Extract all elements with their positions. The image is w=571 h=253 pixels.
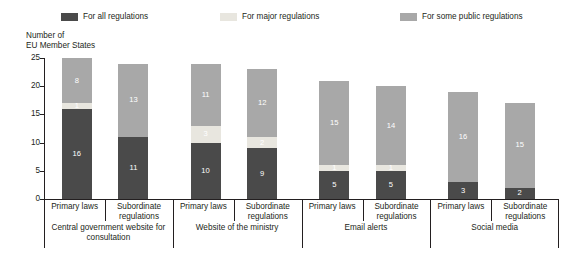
category-label-3: Primary laws [174,202,233,212]
bar-segment-all-regulations: 11 [118,137,148,199]
bar-segment-value-label: 16 [73,150,81,158]
legend-swatch-all-regulations [61,13,78,21]
bar-segment-value-label: 2 [260,139,264,147]
legend-item-some-public-regulations[interactable]: For some public regulations [400,12,523,21]
bar-segment-value-label: 10 [201,167,209,175]
bar-segment-value-label: 11 [202,91,210,99]
bar-2[interactable]: 1311 [118,64,148,199]
y-axis-tick-label: 15 [18,110,40,118]
group-label-2: Website of the ministry [175,223,300,233]
bar-segment-value-label: 8 [75,77,79,85]
bar-5[interactable]: 1515 [319,81,349,199]
bar-segment-some-public-regulations: 8 [62,58,92,103]
bar-segment-major-regulations: 3 [191,126,221,143]
legend-label: For major regulations [242,12,319,21]
chart-legend: For all regulationsFor major regulations… [0,8,571,28]
y-axis-tick-label: 10 [18,139,40,147]
bar-segment-all-regulations: 10 [191,143,221,199]
bar-4[interactable]: 1229 [247,69,277,199]
bar-6[interactable]: 1415 [376,86,406,199]
bar-7[interactable]: 163 [448,92,478,199]
bar-segment-all-regulations: 5 [319,171,349,199]
bar-segment-some-public-regulations: 11 [191,64,221,126]
bar-segment-all-regulations: 9 [247,148,277,199]
bar-segment-value-label: 9 [260,170,264,178]
bar-3[interactable]: 11310 [191,64,221,199]
category-label-5: Primary laws [303,202,362,212]
y-axis-tick [40,86,45,87]
y-axis-tick-label: 20 [18,82,40,90]
bar-segment-some-public-regulations: 16 [448,92,478,182]
bar-segment-value-label: 11 [130,164,138,172]
bar-segment-all-regulations: 2 [505,188,535,199]
group-label-1: Central government website for consultat… [46,223,171,242]
category-label-4: Subordinate regulations [235,202,301,221]
category-label-1: Primary laws [45,202,104,212]
bar-segment-value-label: 12 [258,99,266,107]
y-axis-tick [40,171,45,172]
bar-segment-value-label: 15 [515,141,523,149]
bar-segment-some-public-regulations: 15 [319,81,349,166]
bar-segment-all-regulations: 16 [62,109,92,199]
y-axis-tick [40,143,45,144]
y-axis-tick-label: 5 [18,167,40,175]
bar-segment-value-label: 16 [459,133,467,141]
plot-area: 0510152025811613111131012291515141516315… [44,58,559,200]
bar-segment-some-public-regulations: 14 [376,86,406,165]
legend-item-major-regulations[interactable]: For major regulations [220,12,319,21]
bar-segment-value-label: 14 [387,122,395,130]
y-axis-tick [40,114,45,115]
legend-label: For all regulations [83,12,148,21]
category-label-6: Subordinate regulations [364,202,430,221]
bar-segment-value-label: 3 [461,187,465,195]
y-axis-title: Number of EU Member States [26,31,95,51]
legend-swatch-major-regulations [220,13,237,21]
legend-label: For some public regulations [422,12,523,21]
bar-segment-value-label: 13 [129,96,137,104]
y-axis-tick [40,58,45,59]
bar-segment-major-regulations: 2 [247,137,277,148]
bar-segment-value-label: 3 [203,130,207,138]
group-label-3: Email alerts [304,223,429,233]
legend-item-all-regulations[interactable]: For all regulations [61,12,148,21]
y-axis-tick-label: 0 [18,195,40,203]
bar-8[interactable]: 152 [505,103,535,199]
category-label-2: Subordinate regulations [106,202,172,221]
bar-segment-value-label: 15 [330,119,338,127]
bar-segment-value-label: 5 [389,181,393,189]
bar-segment-value-label: 2 [518,189,522,197]
bar-segment-some-public-regulations: 12 [247,69,277,137]
legend-swatch-some-public-regulations [400,13,417,21]
stacked-bar-chart: For all regulationsFor major regulations… [0,0,571,253]
group-label-4: Social media [432,223,557,233]
y-axis-tick-label: 25 [18,54,40,62]
bar-segment-some-public-regulations: 15 [505,103,535,188]
bar-segment-some-public-regulations: 13 [118,64,148,137]
bar-segment-all-regulations: 3 [448,182,478,199]
bar-segment-all-regulations: 5 [376,171,406,199]
bar-segment-value-label: 5 [332,181,336,189]
category-label-8: Subordinate regulations [492,202,558,221]
category-label-7: Primary laws [431,202,490,212]
y-axis-line [44,58,45,200]
category-axis: Primary lawsSubordinate regulationsPrima… [44,200,559,248]
bar-1[interactable]: 8116 [62,58,92,199]
